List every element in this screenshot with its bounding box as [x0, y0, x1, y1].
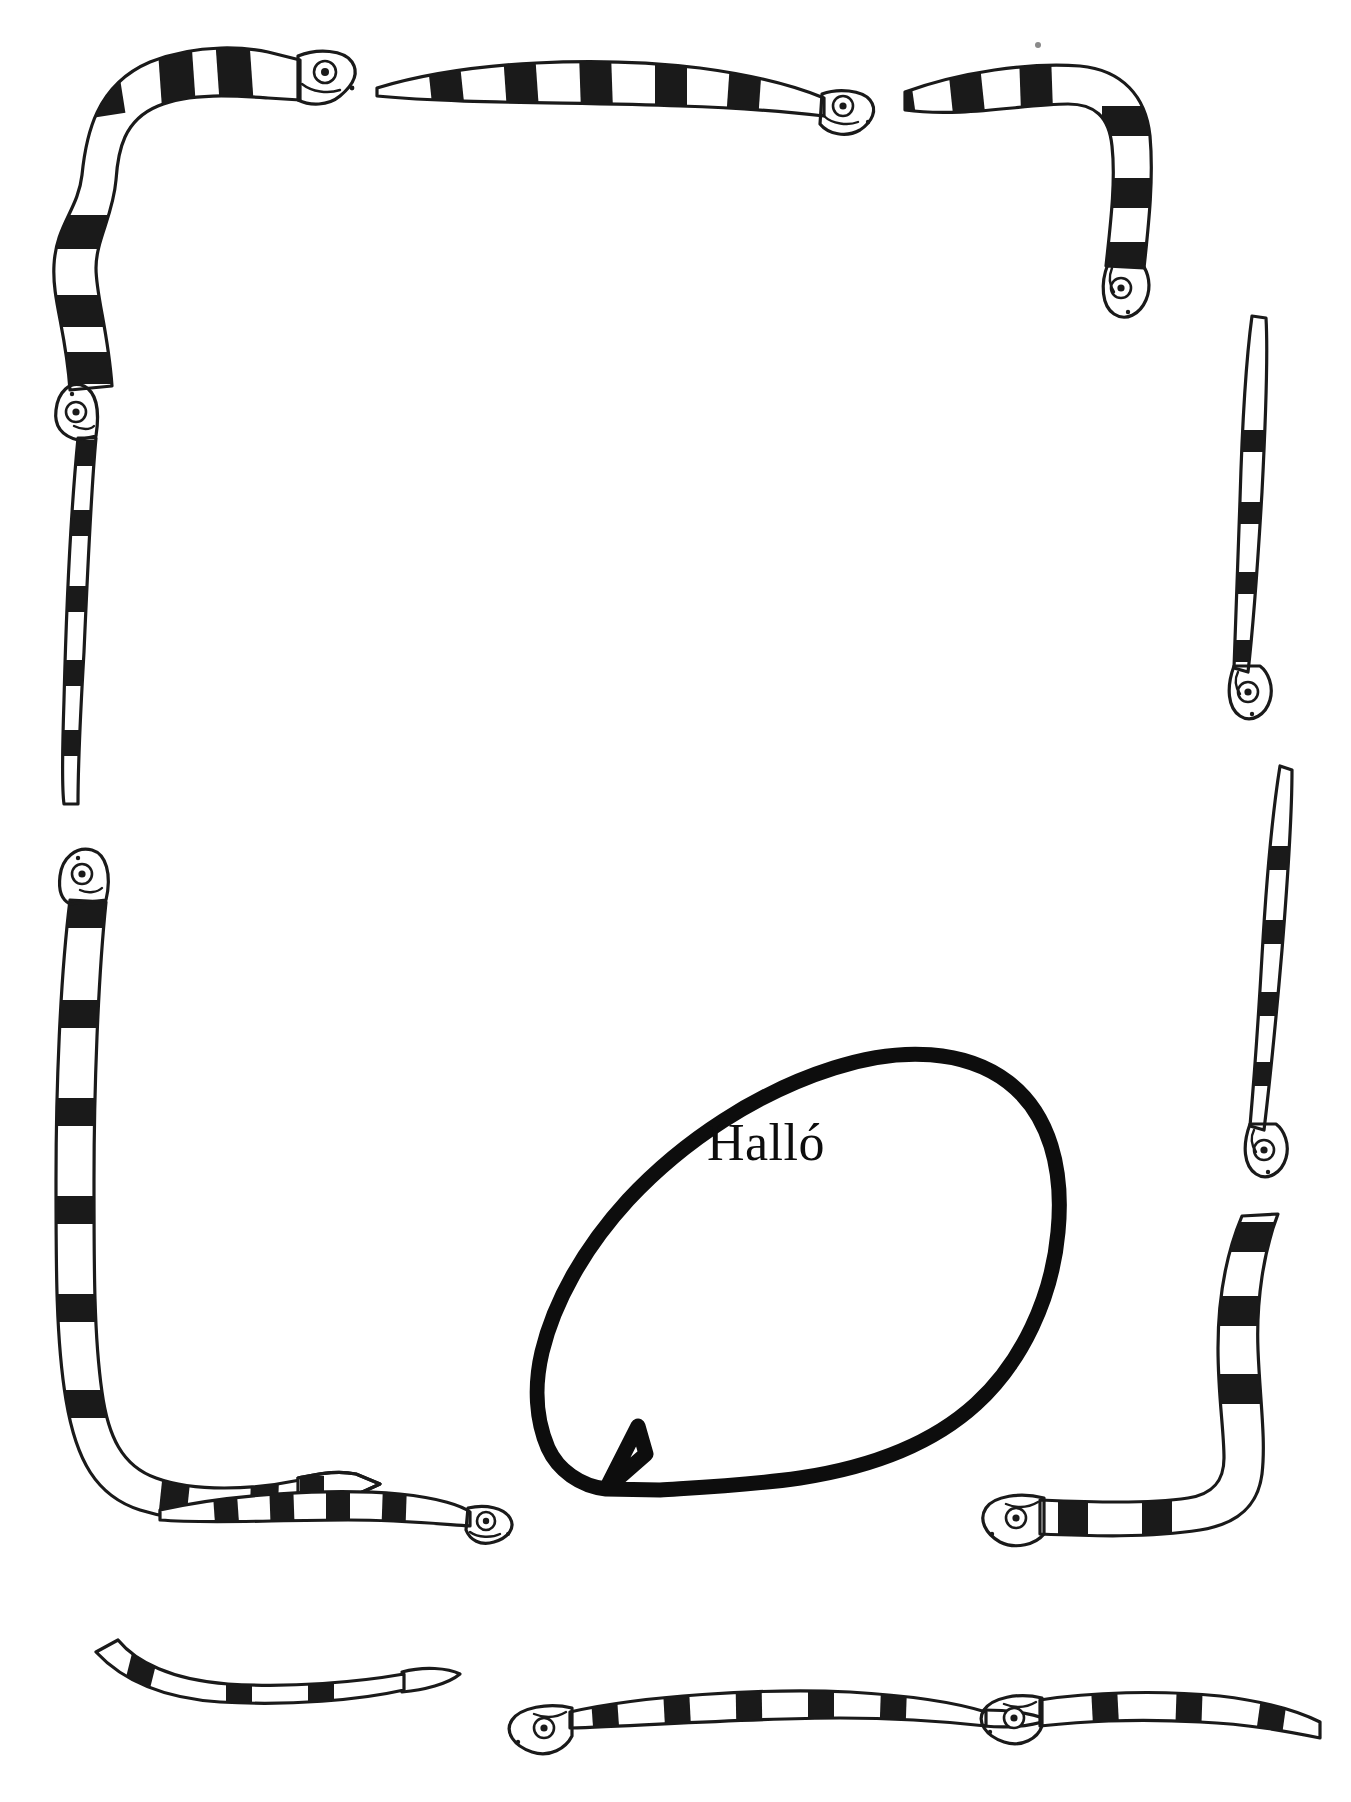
worksheet-page: Halló [0, 0, 1351, 1802]
speech-bubble [0, 0, 1351, 1802]
speech-bubble-text: Halló [646, 1117, 886, 1169]
